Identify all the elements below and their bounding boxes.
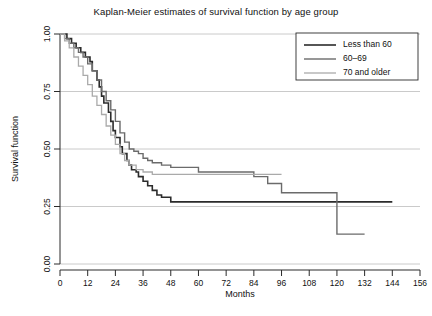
x-tick-label: 84 — [249, 278, 259, 288]
y-tick-label: 0.50 — [42, 140, 52, 157]
legend-label: 60–69 — [343, 53, 367, 63]
x-tick-label: 48 — [166, 278, 176, 288]
y-tick-label: 0.25 — [42, 198, 52, 215]
x-tick-label: 132 — [358, 278, 372, 288]
x-tick-label: 120 — [330, 278, 344, 288]
legend: Less than 6060–6970 and older — [296, 33, 418, 80]
y-tick-label: 1.00 — [42, 25, 52, 42]
legend-label: Less than 60 — [343, 39, 392, 49]
x-tick-label: 156 — [413, 278, 427, 288]
x-tick-label: 0 — [58, 278, 63, 288]
legend-label: 70 and older — [343, 67, 390, 77]
y-tick-label: 0.00 — [42, 255, 52, 272]
x-tick-label: 24 — [111, 278, 121, 288]
kaplan-meier-chart: 01224364860728496108120132144156 0.000.2… — [0, 0, 432, 316]
x-tick-label: 12 — [83, 278, 93, 288]
x-tick-label: 72 — [221, 278, 231, 288]
x-axis-title: Months — [225, 289, 255, 299]
x-axis-ticks: 01224364860728496108120132144156 — [58, 270, 428, 288]
y-axis-title: Survival function — [10, 116, 20, 182]
x-tick-label: 60 — [194, 278, 204, 288]
x-tick-label: 144 — [385, 278, 399, 288]
y-tick-label: 0.75 — [42, 83, 52, 100]
x-tick-label: 96 — [277, 278, 287, 288]
y-axis-ticks: 0.000.250.500.751.00 — [42, 25, 60, 272]
x-tick-label: 36 — [138, 278, 148, 288]
x-tick-label: 108 — [302, 278, 316, 288]
survival-curve — [60, 34, 282, 174]
figure-container: Kaplan-Meier estimates of survival funct… — [0, 0, 432, 316]
